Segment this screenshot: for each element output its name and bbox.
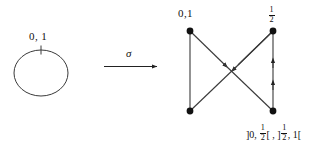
- edge-diagonal-tr-bl-b: [233, 31, 273, 70]
- map-symbol-sigma: σ: [126, 48, 131, 59]
- fraction-one-half-b: 12: [281, 124, 287, 142]
- edge-diagonal-tr-bl-c: [190, 67, 236, 111]
- edge-diagonal-tl-br-a: [190, 31, 226, 66]
- fraction-denominator: 2: [260, 134, 266, 143]
- vertex-top-right: [270, 28, 277, 35]
- source-circle-group: [14, 46, 68, 97]
- source-circle-label: 0, 1: [29, 31, 47, 42]
- source-circle: [14, 50, 68, 96]
- interval-second: ]12, 1[: [277, 129, 301, 140]
- vertex-top-right-label: 12: [268, 6, 275, 24]
- fraction-one-half: 12: [269, 6, 275, 24]
- vertex-top-left-label: 0,1: [178, 8, 193, 19]
- bottom-interval-label: ]0, 12[ , ]12, 1[: [246, 124, 301, 142]
- graph-edges: [190, 31, 273, 111]
- vertex-bottom-right: [270, 108, 277, 115]
- fraction-denominator: 2: [281, 134, 287, 143]
- interval-first: ]0, 12[: [246, 129, 270, 140]
- mathematical-figure: 0, 1 σ 0,1 12 ]0, 12[ , ]12, 1[: [0, 0, 336, 145]
- vertex-top-left: [187, 28, 194, 35]
- fraction-one-half-a: 12: [260, 124, 266, 142]
- fraction-denominator: 2: [269, 16, 275, 25]
- vertex-bottom-left: [187, 108, 194, 115]
